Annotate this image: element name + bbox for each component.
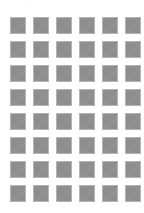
grid-tile[interactable] [102,41,118,58]
grid-tile[interactable] [10,89,26,106]
faint-speck [25,5,26,6]
grid-tile[interactable] [125,65,141,82]
grid-tile[interactable] [79,89,95,106]
grid-tile[interactable] [33,17,49,34]
grid-tile[interactable] [125,185,141,202]
grid-tile[interactable] [56,113,72,130]
grid-tile[interactable] [56,89,72,106]
grid-tile[interactable] [79,113,95,130]
grid-tile[interactable] [102,137,118,154]
grid-tile[interactable] [56,17,72,34]
grid-tile[interactable] [125,41,141,58]
grid-tile[interactable] [125,137,141,154]
grid-tile[interactable] [10,65,26,82]
grid-tile[interactable] [56,41,72,58]
grid-tile[interactable] [10,17,26,34]
grid-tile[interactable] [56,161,72,178]
grid-tile[interactable] [10,137,26,154]
grid-tile[interactable] [79,41,95,58]
grid-tile[interactable] [102,185,118,202]
grid-tile[interactable] [79,65,95,82]
grid-tile[interactable] [33,65,49,82]
grid-tile[interactable] [10,185,26,202]
grid-tile[interactable] [102,65,118,82]
grid-tile[interactable] [10,41,26,58]
grid-tile[interactable] [56,137,72,154]
grid-tile[interactable] [10,161,26,178]
grid-tile[interactable] [79,137,95,154]
grid-tile[interactable] [102,161,118,178]
grid-tile[interactable] [79,185,95,202]
grid-tile[interactable] [125,17,141,34]
grid-tile[interactable] [102,113,118,130]
grid-tile[interactable] [10,113,26,130]
grid-tile[interactable] [102,17,118,34]
grid-tile[interactable] [125,161,141,178]
grid-tile[interactable] [56,65,72,82]
tile-grid [10,17,141,202]
grid-tile[interactable] [79,17,95,34]
grid-tile[interactable] [33,89,49,106]
grid-tile[interactable] [56,185,72,202]
grid-tile[interactable] [33,113,49,130]
grid-tile[interactable] [33,161,49,178]
grid-tile[interactable] [33,41,49,58]
grid-tile[interactable] [125,113,141,130]
grid-tile[interactable] [33,185,49,202]
grid-tile[interactable] [102,89,118,106]
grid-tile[interactable] [33,137,49,154]
grid-tile[interactable] [79,161,95,178]
grid-tile[interactable] [125,89,141,106]
